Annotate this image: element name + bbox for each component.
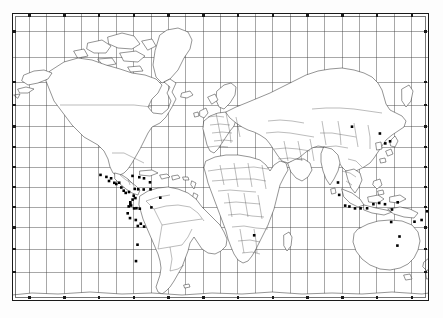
world-map-figure	[0, 0, 443, 318]
map-frame	[12, 13, 429, 301]
world-map-canvas[interactable]	[12, 13, 429, 301]
